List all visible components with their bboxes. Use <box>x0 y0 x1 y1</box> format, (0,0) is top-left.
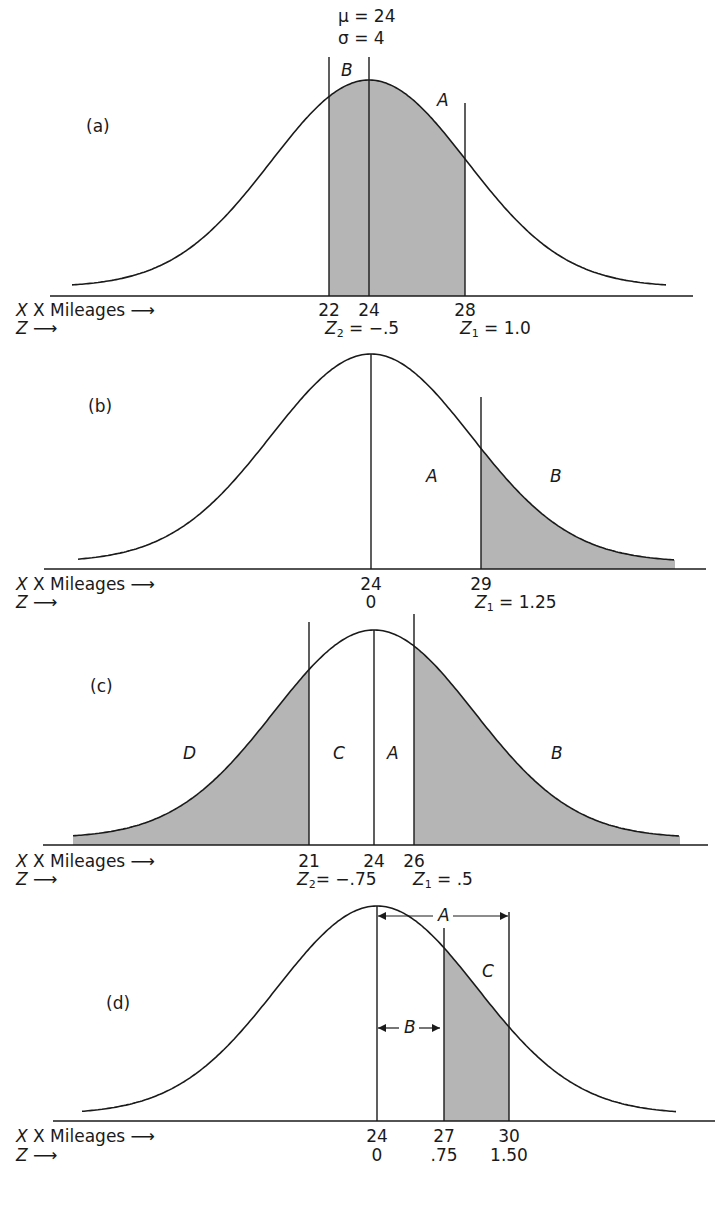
normal-curve-c <box>73 630 679 836</box>
panel-label-b: (b) <box>88 398 112 415</box>
shaded-area-c-1 <box>414 646 680 845</box>
shaded-area-d-0 <box>444 948 509 1121</box>
z-axis-title-a: Z ⟶ <box>16 320 57 337</box>
z-axis-title-c: Z ⟶ <box>16 871 57 888</box>
arrowhead-right-icon <box>432 1024 440 1032</box>
x-axis-title-d: X X Mileages ⟶ <box>16 1128 155 1145</box>
x-axis-title-a: X X Mileages ⟶ <box>16 302 155 319</box>
normal-curve-d <box>82 906 676 1112</box>
z-tick-d-1.50: 1.50 <box>490 1147 528 1164</box>
span-label-B: B <box>404 1019 416 1036</box>
region-label-d-C: C <box>482 963 494 980</box>
panel-label-a: (a) <box>86 118 110 135</box>
std-dev-label: σ = 4 <box>338 30 385 47</box>
z-score-annotation-a-1: Z1 = 1.0 <box>460 320 531 339</box>
arrowhead-left-icon <box>378 912 386 920</box>
region-label-c-A: A <box>387 745 399 762</box>
shaded-area-a-0 <box>329 80 465 296</box>
region-label-c-D: D <box>183 745 196 762</box>
z-score-annotation-b-0: Z1 = 1.25 <box>475 594 557 613</box>
arrowhead-left-icon <box>378 1024 386 1032</box>
x-tick-a-22: 22 <box>318 302 340 319</box>
arrowhead-right-icon <box>500 912 508 920</box>
x-tick-b-24: 24 <box>360 576 382 593</box>
span-label-A: A <box>438 907 450 924</box>
x-tick-c-21: 21 <box>298 853 320 870</box>
x-tick-d-24: 24 <box>366 1128 388 1145</box>
x-tick-c-26: 26 <box>403 853 425 870</box>
x-tick-c-24: 24 <box>363 853 385 870</box>
mean-label: μ = 24 <box>338 8 396 25</box>
panel-label-d: (d) <box>106 995 130 1012</box>
z-score-annotation-c-0: Z2= −.75 <box>297 871 377 890</box>
z-tick-d-.75: .75 <box>430 1147 457 1164</box>
z-score-annotation-a-0: Z2 = −.5 <box>325 320 399 339</box>
region-label-c-C: C <box>333 745 345 762</box>
z-tick-b-0: 0 <box>366 594 377 611</box>
z-tick-d-0: 0 <box>372 1147 383 1164</box>
region-label-a-A: A <box>437 92 449 109</box>
x-tick-a-28: 28 <box>454 302 476 319</box>
x-tick-d-27: 27 <box>433 1128 455 1145</box>
z-score-annotation-c-1: Z1 = .5 <box>413 871 473 890</box>
x-tick-a-24: 24 <box>358 302 380 319</box>
normal-curve-b <box>78 354 674 560</box>
region-label-a-B: B <box>341 62 353 79</box>
region-label-c-B: B <box>551 745 563 762</box>
figure-canvas <box>0 0 723 1213</box>
panel-label-c: (c) <box>90 678 113 695</box>
x-axis-title-b: X X Mileages ⟶ <box>16 576 155 593</box>
region-label-b-A: A <box>426 468 438 485</box>
z-axis-title-b: Z ⟶ <box>16 594 57 611</box>
x-axis-title-c: X X Mileages ⟶ <box>16 853 155 870</box>
shaded-area-b-0 <box>481 448 675 569</box>
normal-distribution-figure: μ = 24 σ = 4 (a)BAX X Mileages ⟶Z ⟶22242… <box>0 0 723 1213</box>
x-tick-b-29: 29 <box>470 576 492 593</box>
x-tick-d-30: 30 <box>498 1128 520 1145</box>
z-axis-title-d: Z ⟶ <box>16 1147 57 1164</box>
region-label-b-B: B <box>550 468 562 485</box>
